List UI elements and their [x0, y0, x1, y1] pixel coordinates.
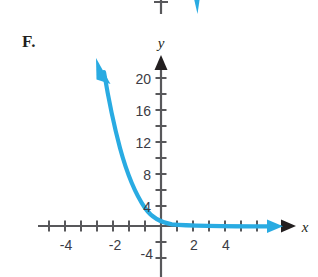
y-axis-arrowhead-icon	[155, 55, 168, 70]
y-axis	[155, 55, 168, 277]
y-tick-label-12: 12	[135, 135, 151, 151]
cropped-artifact-group	[154, 0, 201, 14]
y-tick-label-20: 20	[135, 71, 151, 87]
curve-arrowhead-up-icon	[96, 58, 111, 84]
y-axis-label: y	[156, 35, 165, 51]
y-tick-label-4: 4	[143, 199, 151, 215]
x-tick-label-4: 4	[222, 237, 230, 253]
curve-arrowhead-right-icon	[267, 220, 283, 234]
x-tick-label-neg4: -4	[60, 237, 73, 253]
curve-path	[104, 72, 272, 226]
x-tick-label-neg2: -2	[109, 237, 122, 253]
y-tick-labels: 20 16 12 8 4 -4	[135, 71, 153, 262]
y-tick-label-8: 8	[143, 167, 151, 183]
cropped-arrowhead-icon	[192, 0, 201, 14]
y-tick-label-neg4: -4	[141, 246, 154, 262]
exponential-curve	[96, 58, 283, 233]
x-axis-label: x	[301, 219, 309, 235]
x-axis-arrowhead-icon	[281, 220, 296, 233]
y-tick-label-16: 16	[135, 103, 151, 119]
figure-screenshot: F.	[0, 0, 318, 277]
x-tick-label-2: 2	[190, 237, 198, 253]
graph-canvas: 20 16 12 8 4 -4 -4 -2 2 4 y x	[0, 0, 318, 277]
